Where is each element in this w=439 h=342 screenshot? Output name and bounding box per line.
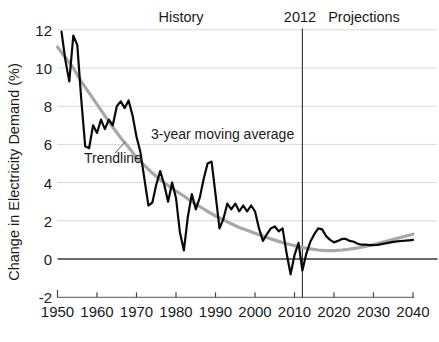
y-tick-label-6: 6 [44,137,52,152]
history-region-label: History [158,10,203,25]
x-tick-label-1950: 1950 [41,304,74,319]
x-tick-label-2020: 2020 [317,304,350,319]
y-tick-label-12: 12 [35,22,52,37]
y-tick-label-8: 8 [44,99,52,114]
projections-region-label: Projections [328,10,400,25]
x-tick-label-1970: 1970 [120,304,153,319]
moving-average-annotation: 3-year moving average [151,127,294,141]
electricity-demand-chart: History 2012 Projections 3-year moving a… [0,0,439,342]
y-tick-label-0: 0 [44,252,52,267]
y-tick-label-4: 4 [44,175,52,190]
x-tick-label-2030: 2030 [357,304,390,319]
plot-area [0,0,439,342]
x-tick-label-1980: 1980 [159,304,192,319]
trendline-series [58,47,414,251]
x-tick-label-2040: 2040 [396,304,429,319]
x-tick-label-2000: 2000 [238,304,271,319]
x-tick-label-2010: 2010 [278,304,311,319]
divider-year-label: 2012 [284,10,316,25]
trendline-annotation: Trendline [84,151,142,165]
y-tick-label-10: 10 [35,61,52,76]
y-tick-label-2: 2 [44,213,52,228]
x-tick-label-1960: 1960 [80,304,113,319]
y-axis-title: Change in Electricity Demand (%) [6,63,22,281]
x-tick-label-1990: 1990 [199,304,232,319]
